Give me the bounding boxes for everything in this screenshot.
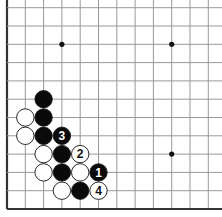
white-stone — [35, 164, 52, 181]
black-stone — [72, 182, 89, 199]
black-stone-icon — [53, 164, 70, 181]
white-stone — [17, 109, 34, 126]
go-board: 3214 — [0, 0, 222, 217]
black-stone-icon — [35, 127, 52, 144]
white-stone-move-4: 4 — [90, 182, 107, 199]
black-stone-icon — [35, 91, 52, 108]
white-stone — [53, 182, 70, 199]
white-stone-icon — [53, 182, 70, 199]
black-stone — [53, 145, 70, 162]
move-number-label: 2 — [77, 147, 84, 161]
black-stone — [53, 164, 70, 181]
black-stone-icon — [53, 145, 70, 162]
black-stone-move-3: 3 — [53, 127, 70, 144]
white-stone-move-2: 2 — [72, 145, 89, 162]
move-number-label: 3 — [59, 129, 66, 143]
black-stone — [35, 109, 52, 126]
white-stone-icon — [72, 164, 89, 181]
black-stone-icon — [72, 182, 89, 199]
black-stone — [35, 127, 52, 144]
move-number-label: 1 — [95, 166, 102, 180]
white-stone — [35, 145, 52, 162]
star-point-icon — [59, 42, 64, 47]
white-stone-icon — [35, 145, 52, 162]
white-stone-icon — [35, 164, 52, 181]
white-stone — [17, 127, 34, 144]
white-stone-icon — [17, 127, 34, 144]
star-point-icon — [169, 42, 174, 47]
star-point-icon — [169, 152, 174, 157]
move-number-label: 4 — [95, 184, 102, 198]
black-stone — [35, 91, 52, 108]
black-stone-move-1: 1 — [90, 164, 107, 181]
black-stone-icon — [35, 109, 52, 126]
white-stone — [72, 164, 89, 181]
white-stone-icon — [17, 109, 34, 126]
